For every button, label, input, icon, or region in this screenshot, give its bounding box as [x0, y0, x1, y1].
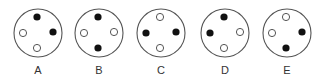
option-label: A [34, 64, 42, 76]
option-b: B [75, 9, 123, 76]
hollow-dot-left [268, 29, 275, 36]
hollow-dot-top [282, 13, 289, 20]
option-a: A [14, 9, 62, 76]
hollow-dot-bottom [220, 44, 227, 51]
filled-dot-bottom [282, 44, 289, 51]
hollow-dot-top [156, 13, 163, 20]
filled-dot-right [298, 28, 305, 35]
filled-dot-bottom [94, 44, 101, 51]
filled-dot-right [172, 28, 179, 35]
pattern-figure: ABCDE [0, 0, 321, 83]
hollow-dot-bottom [156, 44, 163, 51]
filled-dot-top [33, 13, 40, 20]
filled-dot-left [206, 29, 213, 36]
option-label: C [157, 64, 165, 76]
option-e: E [263, 9, 311, 76]
filled-dot-top [94, 13, 101, 20]
option-label: E [283, 64, 290, 76]
hollow-dot-right [110, 28, 117, 35]
filled-dot-top [220, 13, 227, 20]
option-label: B [95, 64, 102, 76]
option-label: D [221, 64, 229, 76]
option-c: C [137, 9, 185, 76]
hollow-dot-left [19, 29, 26, 36]
hollow-dot-right [236, 28, 243, 35]
hollow-dot-left [80, 29, 87, 36]
hollow-dot-bottom [33, 44, 40, 51]
option-d: D [201, 9, 249, 76]
filled-dot-left [142, 29, 149, 36]
filled-dot-right [49, 28, 56, 35]
